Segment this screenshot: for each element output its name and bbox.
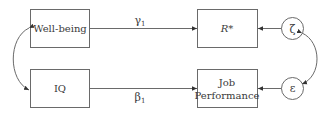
iq-node: IQ — [31, 70, 90, 108]
jobperf-label-line2: Performance — [195, 90, 260, 101]
jobperf-node: Job Performance — [195, 70, 260, 108]
iq-label: IQ — [54, 83, 66, 94]
covariance-curve-left — [13, 28, 29, 90]
rstar-label: R* — [220, 23, 234, 34]
wellbeing-label: Well-being — [33, 23, 87, 34]
epsilon-node: ε — [282, 78, 304, 100]
beta-label: β1 — [135, 91, 146, 105]
zeta-label: ζ — [290, 23, 296, 36]
rstar-node: R* — [198, 10, 258, 48]
jobperf-label-line1: Job — [218, 77, 235, 88]
covariance-curve-right — [302, 33, 317, 84]
zeta-node: ζ — [282, 18, 304, 40]
epsilon-label: ε — [290, 82, 296, 95]
wellbeing-node: Well-being — [31, 10, 90, 48]
path-diagram: Well-being IQ R* Job Performance ζ ε γ1 … — [0, 0, 325, 113]
gamma-label: γ1 — [134, 14, 145, 28]
